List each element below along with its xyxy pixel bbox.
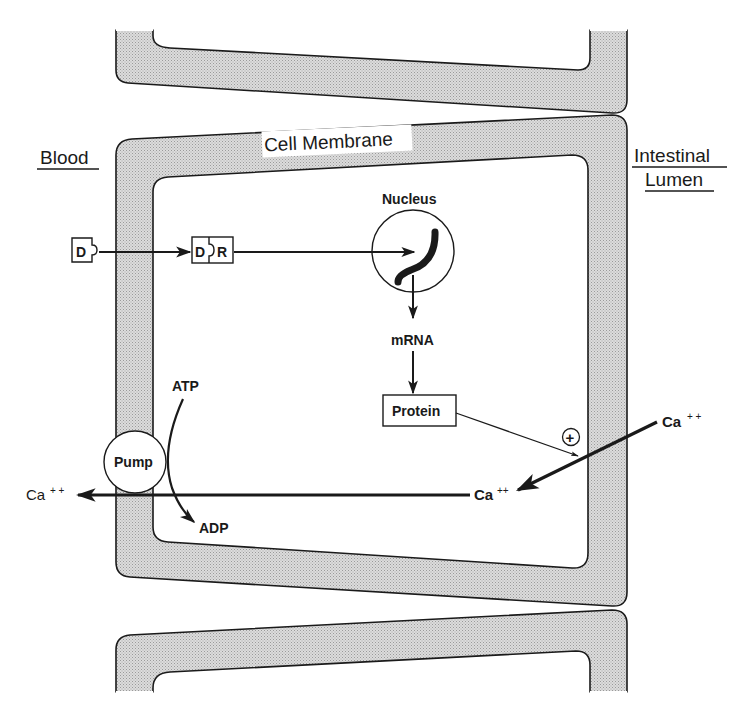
cytoplasm	[153, 155, 588, 568]
svg-text:Pump: Pump	[114, 454, 153, 470]
bottom-cell	[116, 610, 627, 692]
svg-text:Ca: Ca	[26, 486, 46, 503]
mrna-label: mRNA	[391, 332, 434, 348]
svg-text:Blood: Blood	[40, 147, 89, 168]
svg-text:Intestinal: Intestinal	[634, 145, 710, 166]
adp-label: ADP	[199, 520, 229, 536]
ca-lumen-label: Ca + +	[662, 411, 702, 430]
svg-text:Ca: Ca	[474, 486, 494, 503]
protein-box: Protein	[383, 395, 456, 426]
d-ligand-box: D	[72, 238, 97, 262]
svg-text:++: ++	[497, 485, 509, 496]
svg-text:D: D	[76, 244, 86, 260]
top-cell	[116, 30, 627, 113]
svg-text:Protein: Protein	[392, 403, 440, 419]
cell-diagram: Cell Membrane Blood Intestinal Lumen D D…	[0, 0, 752, 716]
atp-label: ATP	[172, 378, 199, 394]
svg-text:Ca: Ca	[662, 413, 682, 430]
svg-text:+ +: + +	[687, 411, 702, 422]
plus-sign-icon: +	[563, 429, 580, 446]
svg-text:Nucleus: Nucleus	[382, 191, 437, 207]
intestinal-lumen-label: Intestinal Lumen	[632, 145, 727, 191]
svg-text:R: R	[217, 244, 227, 260]
blood-region-label: Blood	[37, 147, 99, 169]
pump-circle: Pump	[104, 431, 166, 493]
svg-text:Lumen: Lumen	[645, 169, 703, 190]
svg-text:+ +: + +	[50, 485, 65, 496]
dr-complex-box: D R	[192, 237, 233, 263]
svg-text:+: +	[566, 429, 575, 446]
ca-blood-label: Ca + +	[26, 485, 65, 503]
main-cell: Cell Membrane	[116, 115, 627, 606]
svg-text:D: D	[195, 244, 205, 260]
